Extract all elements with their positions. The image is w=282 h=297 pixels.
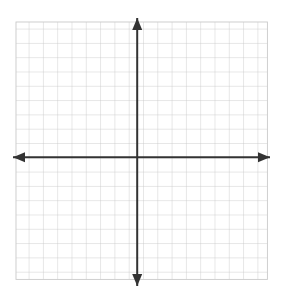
grid-area xyxy=(16,22,267,279)
grid xyxy=(16,22,267,279)
coordinate-plane-figure xyxy=(0,0,282,297)
coordinate-plane-svg xyxy=(0,0,282,297)
